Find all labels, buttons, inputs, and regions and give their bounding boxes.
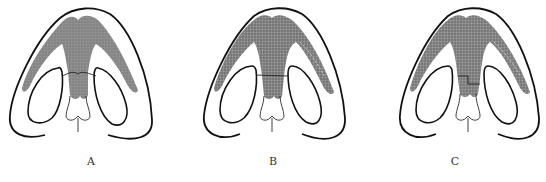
right-nostril (94, 68, 127, 125)
columella-base (66, 96, 90, 120)
lateral-crura-shading (22, 16, 138, 99)
panel-a: A (0, 0, 182, 182)
columella-base (456, 94, 480, 120)
panel-c-label: C (364, 155, 546, 168)
nasal-cartilage-figure: A B (0, 0, 546, 182)
panel-c: C (364, 0, 546, 182)
panel-a-label: A (0, 155, 182, 168)
lateral-crura-shading (410, 15, 530, 97)
panel-b-label: B (182, 155, 364, 168)
right-nostril (484, 66, 517, 124)
panel-b: B (182, 0, 364, 182)
columella-base (260, 96, 284, 120)
right-nostril (288, 66, 321, 124)
